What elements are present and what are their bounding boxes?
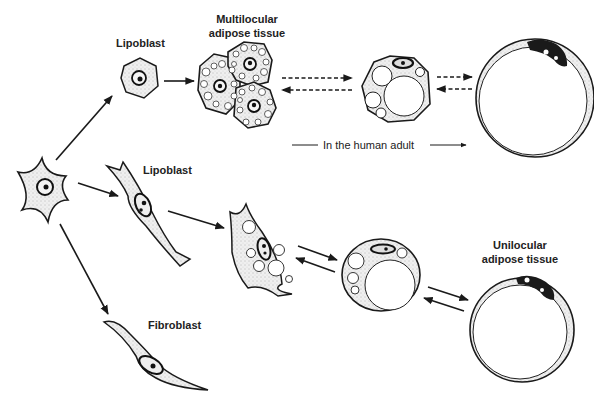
mesenchymal-cell — [18, 158, 68, 222]
unilocular-cell-bottom — [470, 276, 574, 382]
label-fibroblast: Fibroblast — [148, 318, 201, 332]
transitional-cell-top — [362, 56, 430, 122]
label-lipoblast-middle: Lipoblast — [143, 163, 192, 177]
label-unilocular-line1: Unilocular — [470, 238, 570, 252]
label-unilocular: Unilocular adipose tissue — [470, 238, 570, 266]
label-unilocular-line2: adipose tissue — [470, 252, 570, 266]
arrow-right-middle-1 — [298, 246, 337, 260]
developing-adipocyte — [230, 204, 293, 296]
label-human-adult: In the human adult — [323, 138, 414, 152]
arrow-to-fibroblast — [60, 224, 108, 314]
arrow-right-bottom — [428, 287, 468, 300]
arrow-to-lipoblast-top — [56, 96, 112, 160]
unilocular-cell-top — [476, 39, 594, 157]
label-lipoblast-top: Lipoblast — [116, 36, 165, 50]
label-multilocular-line2: adipose tissue — [197, 26, 297, 40]
arrow-to-developing-adipocyte — [168, 211, 224, 228]
label-multilocular-line1: Multilocular — [197, 12, 297, 26]
multilocular-cluster — [198, 42, 276, 128]
arrow-left-middle-1 — [296, 258, 335, 272]
transitional-cell-bottom — [342, 239, 420, 311]
lipoblast-top-cell — [121, 58, 158, 98]
label-multilocular: Multilocular adipose tissue — [197, 12, 297, 40]
arrow-left-bottom — [424, 298, 464, 311]
arrow-to-lipoblast-middle — [78, 183, 118, 196]
diagram-canvas — [0, 0, 594, 403]
